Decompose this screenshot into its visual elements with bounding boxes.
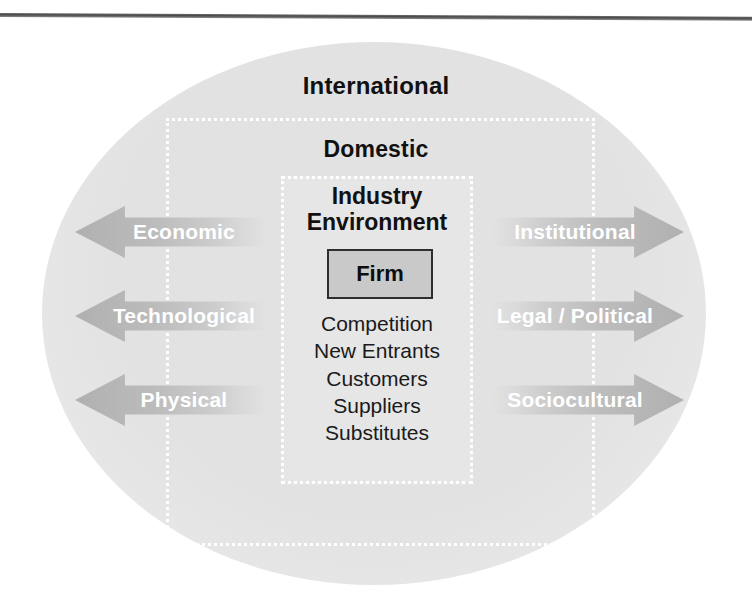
five-forces-list: Competition New Entrants Customers Suppl… [281,310,473,446]
arrow-institutional-label: Institutional [492,220,684,244]
arrow-institutional: Institutional [492,206,684,258]
list-item: Competition [281,310,473,337]
industry-environment-line-1: Industry [332,183,423,209]
arrow-legal-political: Legal / Political [492,290,684,342]
list-item: Customers [281,365,473,392]
arrow-economic: Economic [75,206,267,258]
header-rule [0,13,752,21]
list-item: Substitutes [281,419,473,446]
list-item: New Entrants [281,337,473,364]
firm-box: Firm [327,249,433,299]
arrow-sociocultural-label: Sociocultural [492,388,684,412]
firm-label: Firm [356,261,404,287]
business-environment-diagram: International Domestic Industry Environm… [0,26,752,601]
arrow-physical-label: Physical [75,388,267,412]
domestic-ring-label: Domestic [0,136,752,163]
arrow-legal-political-label: Legal / Political [492,304,684,328]
arrow-economic-label: Economic [75,220,267,244]
arrow-sociocultural: Sociocultural [492,374,684,426]
international-ring-label: International [0,72,752,100]
arrow-technological: Technological [75,290,267,342]
industry-environment-label: Industry Environment [281,184,473,236]
arrow-technological-label: Technological [75,304,267,328]
industry-environment-line-2: Environment [307,209,448,235]
arrow-physical: Physical [75,374,267,426]
list-item: Suppliers [281,392,473,419]
